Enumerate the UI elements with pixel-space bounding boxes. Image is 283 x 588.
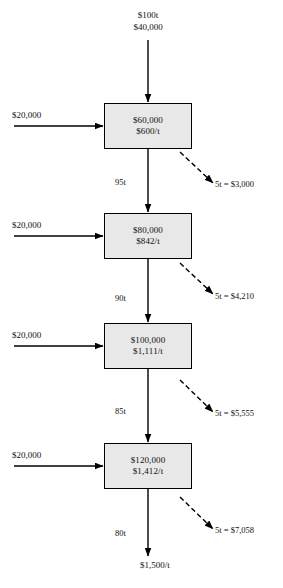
process-stage-1: $60,000 $600/t	[104, 103, 192, 149]
stage-1-total-cost: $60,000	[133, 115, 163, 126]
stage-2-unit-cost: $842/t	[136, 236, 160, 247]
process-stage-4: $120,000 $1,412/t	[104, 443, 192, 489]
input-feed-tonnage: $100t	[113, 10, 183, 22]
arrow-loss-3	[180, 380, 213, 412]
stage-1-loss-label: 5t = $3,000	[215, 179, 254, 190]
stage-2-total-cost: $80,000	[133, 225, 163, 236]
stage-3-added-cost-label: $20,000	[12, 330, 41, 342]
input-feed-cost: $40,000	[113, 22, 183, 34]
stage-1-output-tonnage-label: 95t	[115, 177, 126, 188]
process-stage-3: $100,000 $1,111/t	[104, 323, 192, 369]
arrow-loss-4	[180, 497, 213, 529]
process-flow-diagram: $100t $40,000 $60,000 $600/t $80,000 $84…	[0, 0, 283, 588]
stage-3-loss-label: 5t = $5,555	[215, 408, 254, 419]
stage-2-added-cost-label: $20,000	[12, 220, 41, 232]
input-feed-label: $100t $40,000	[113, 10, 183, 33]
stage-4-loss-label: 5t = $7,058	[215, 525, 254, 536]
process-stage-2: $80,000 $842/t	[104, 213, 192, 259]
stage-2-output-tonnage-label: 90t	[115, 293, 126, 304]
output-unit-cost-label: $1,500/t	[140, 560, 170, 572]
stage-4-output-tonnage-label: 80t	[115, 528, 126, 539]
stage-4-unit-cost: $1,412/t	[133, 466, 164, 477]
stage-3-output-tonnage-label: 85t	[115, 406, 126, 417]
arrow-loss-2	[180, 263, 213, 294]
stage-1-unit-cost: $600/t	[136, 126, 160, 137]
stage-4-added-cost-label: $20,000	[12, 450, 41, 462]
stage-3-total-cost: $100,000	[131, 335, 166, 346]
stage-2-loss-label: 5t = $4,210	[215, 291, 254, 302]
stage-4-total-cost: $120,000	[131, 455, 166, 466]
arrow-loss-1	[180, 152, 213, 183]
stage-3-unit-cost: $1,111/t	[133, 346, 163, 357]
stage-1-added-cost-label: $20,000	[12, 110, 41, 122]
